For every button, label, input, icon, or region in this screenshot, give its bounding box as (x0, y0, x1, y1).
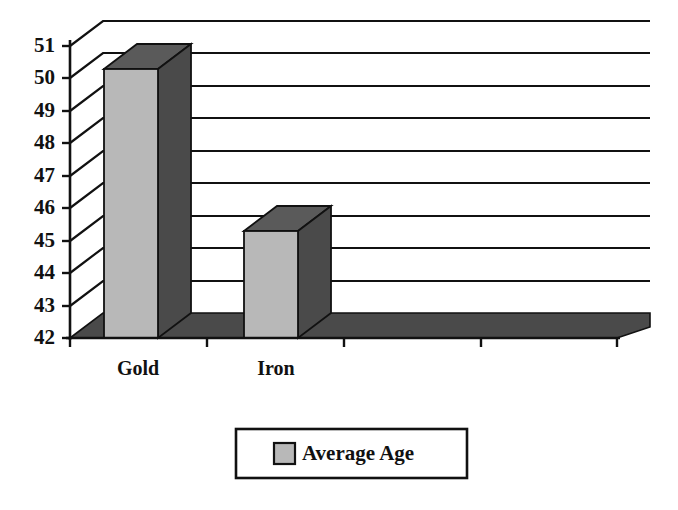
y-axis-label-43: 43 (34, 293, 55, 317)
y-axis-label-51: 51 (34, 33, 55, 57)
legend-swatch-average-age (274, 443, 295, 464)
legend[interactable]: Average Age (236, 429, 467, 478)
bar-gold-front-face (104, 69, 158, 338)
x-axis-label-gold: Gold (117, 357, 159, 379)
bar-iron-front-face (244, 231, 298, 338)
y-axis-label-48: 48 (34, 130, 55, 154)
bar-chart: 51 50 49 48 47 46 45 44 43 42 Gold Iron … (0, 0, 678, 510)
y-axis-label-46: 46 (34, 195, 55, 219)
bar-gold[interactable] (104, 44, 191, 338)
bar-gold-side-face (158, 44, 191, 338)
y-axis-label-42: 42 (34, 325, 55, 349)
y-axis-label-44: 44 (34, 260, 56, 284)
chart-svg: 51 50 49 48 47 46 45 44 43 42 Gold Iron … (0, 0, 678, 510)
y-axis-label-49: 49 (34, 98, 55, 122)
legend-label-average-age: Average Age (302, 441, 414, 465)
x-axis-label-iron: Iron (257, 357, 294, 379)
y-axis-label-45: 45 (34, 228, 55, 252)
y-axis-label-47: 47 (34, 163, 55, 187)
y-axis-label-50: 50 (34, 65, 55, 89)
bar-iron[interactable] (244, 206, 331, 338)
